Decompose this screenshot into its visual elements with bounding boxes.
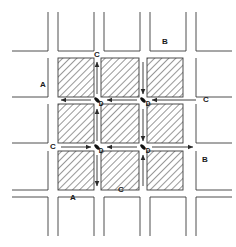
block-r2c3: [147, 104, 183, 143]
street-grid-figure: AABBCCCCDDDD: [0, 0, 236, 247]
block-r1c2: [101, 58, 139, 97]
diagram-canvas: [0, 0, 236, 247]
node-d-bottom-right: D: [146, 148, 151, 155]
block-r1c3: [147, 58, 183, 97]
block-r3c3: [147, 151, 183, 190]
label-b-right: B: [202, 156, 208, 164]
block-r1c1: [58, 58, 94, 97]
hatched-blocks-layer: [58, 58, 183, 190]
block-r2c1: [58, 104, 94, 143]
label-b-top: B: [162, 38, 168, 46]
block-r2c2: [101, 104, 139, 143]
label-c-top: C: [94, 51, 100, 59]
label-c-bottom: C: [118, 186, 124, 194]
label-a-bottom: A: [70, 194, 76, 202]
node-d-top-right: D: [146, 101, 151, 108]
label-a-left: A: [40, 81, 46, 89]
label-c-right: C: [203, 96, 209, 104]
node-d-bottom-left: D: [99, 148, 104, 155]
label-c-left: C: [50, 143, 56, 151]
node-d-top-left: D: [99, 101, 104, 108]
block-r3c1: [58, 151, 94, 190]
